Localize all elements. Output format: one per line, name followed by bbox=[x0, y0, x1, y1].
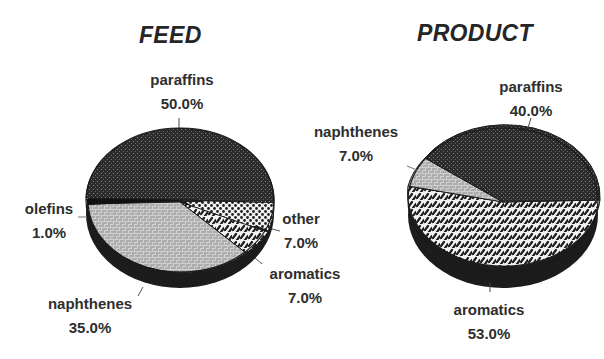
product-label-aromatics-name: aromatics bbox=[446, 298, 532, 322]
feed-label-olefins-pct: 1.0% bbox=[18, 221, 80, 245]
product-label-naphthenes: naphthenes 7.0% bbox=[302, 120, 410, 168]
feed-label-other-name: other bbox=[276, 207, 326, 231]
feed-label-naphthenes-pct: 35.0% bbox=[36, 316, 144, 340]
feed-label-olefins-name: olefins bbox=[18, 197, 80, 221]
feed-label-other: other 7.0% bbox=[276, 207, 326, 255]
feed-label-naphthenes-name: naphthenes bbox=[36, 292, 144, 316]
product-title: PRODUCT bbox=[417, 20, 533, 47]
feed-label-paraffins-pct: 50.0% bbox=[139, 92, 225, 116]
product-label-naphthenes-pct: 7.0% bbox=[302, 144, 410, 168]
product-label-aromatics-pct: 53.0% bbox=[446, 322, 532, 346]
product-label-aromatics: aromatics 53.0% bbox=[446, 298, 532, 346]
feed-pie bbox=[78, 118, 280, 296]
feed-label-other-pct: 7.0% bbox=[276, 231, 326, 255]
feed-leader-aromatics bbox=[255, 258, 262, 264]
product-label-naphthenes-name: naphthenes bbox=[302, 120, 410, 144]
feed-label-olefins: olefins 1.0% bbox=[18, 197, 80, 245]
feed-label-aromatics-pct: 7.0% bbox=[262, 286, 348, 310]
feed-label-aromatics-name: aromatics bbox=[262, 262, 348, 286]
product-label-paraffins-name: paraffins bbox=[488, 75, 574, 99]
feed-slice-paraffins bbox=[86, 128, 274, 203]
product-label-paraffins: paraffins 40.0% bbox=[488, 75, 574, 123]
feed-label-naphthenes: naphthenes 35.0% bbox=[36, 292, 144, 340]
feed-label-paraffins: paraffins 50.0% bbox=[139, 68, 225, 116]
feed-label-paraffins-name: paraffins bbox=[139, 68, 225, 92]
feed-title: FEED bbox=[139, 22, 202, 49]
product-pie bbox=[407, 118, 600, 292]
product-label-paraffins-pct: 40.0% bbox=[488, 99, 574, 123]
feed-label-aromatics: aromatics 7.0% bbox=[262, 262, 348, 310]
